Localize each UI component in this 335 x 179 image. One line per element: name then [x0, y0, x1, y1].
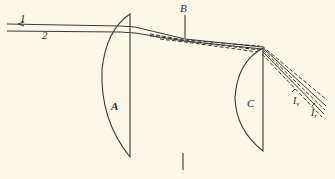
- point-b-label: B: [180, 3, 187, 14]
- lens-a-label: A: [111, 101, 118, 112]
- violet-ray-label: Iv: [293, 96, 299, 108]
- lens-c-label: C: [247, 98, 254, 109]
- lens-a: [102, 14, 130, 157]
- optics-diagram: 1 2 B A C Iv Ir: [0, 0, 335, 179]
- violet-ray-label-sub: v: [296, 100, 299, 108]
- red-ray-label-sub: r: [314, 112, 317, 120]
- converging-rays: [150, 34, 260, 52]
- ray-1-label: 1: [20, 13, 26, 24]
- ray-2-label: 2: [42, 30, 48, 41]
- diagram-canvas: [0, 0, 335, 179]
- red-ray-label: Ir: [311, 108, 317, 120]
